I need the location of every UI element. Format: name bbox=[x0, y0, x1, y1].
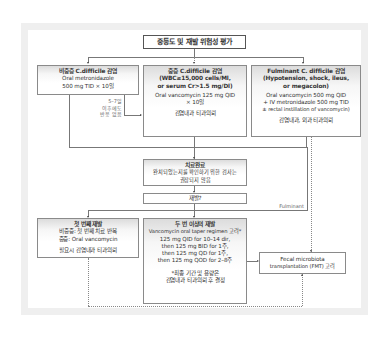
connector bbox=[247, 261, 257, 262]
connector bbox=[124, 95, 125, 115]
title-text: 중등도 및 재발 위험성 평가 bbox=[144, 36, 245, 48]
no-response-label: 5–7일 이후에도 반응 없음 bbox=[92, 98, 122, 118]
severe-heading: (WBC≥15,000 cells/Ml, bbox=[144, 75, 246, 82]
arrow-right-icon bbox=[140, 114, 142, 116]
feedback-connector bbox=[302, 274, 303, 306]
connector bbox=[124, 115, 141, 116]
connector bbox=[194, 137, 195, 159]
connector bbox=[69, 95, 70, 147]
recurrence-question-text: 재발? bbox=[144, 194, 246, 203]
first-recurrence-box: 첫 번째 재발 비중증: 첫 번째 치료 반복 중증: Oral vancomy… bbox=[37, 218, 139, 258]
connector bbox=[194, 49, 195, 57]
nonsevere-box: 비중증 C.difficile 감염 Oral metronidazole 50… bbox=[37, 65, 139, 95]
second-recur-note: 감염내과 티과의뢰 후 결정 bbox=[144, 277, 246, 284]
feedback-connector bbox=[88, 306, 302, 307]
fulminant-heading: (Hypotension, shock, ileus, bbox=[252, 75, 360, 82]
fulminant-heading: or megacolon) bbox=[252, 83, 360, 90]
fulminant-note: 감염내과, 외과 티과의뢰 bbox=[252, 117, 360, 124]
nonsevere-line: Oral metronidazole bbox=[38, 75, 138, 82]
second-recur-line: Vancomycin oral taper regimen 고려* bbox=[144, 228, 246, 235]
feedback-connector bbox=[88, 258, 89, 306]
label-line: 반응 없음 bbox=[92, 111, 122, 118]
arrow-down-icon bbox=[193, 62, 195, 64]
severe-line: × 10일 bbox=[144, 99, 246, 106]
title-box: 중등도 및 재발 위험성 평가 bbox=[143, 35, 246, 49]
fulminant-label: Fulminant bbox=[270, 203, 304, 210]
second-recur-note: *최종 기간 및 용량은 bbox=[144, 270, 246, 277]
second-recur-line: then 125 mg QOD for 2–8주 bbox=[144, 257, 246, 264]
first-recur-line: 중증: Oral vancomycin bbox=[38, 236, 138, 243]
fmt-line: transplantation (FMT) 고려 bbox=[260, 263, 345, 270]
nonsevere-line: 500 mg TID × 10일 bbox=[38, 83, 138, 90]
recurrence-question-box: 재발? bbox=[143, 193, 247, 204]
second-recurrence-box: 두 번 이상의 재발 Vancomycin oral taper regimen… bbox=[143, 218, 247, 304]
second-recur-line: then 125 mg QD for 1주, bbox=[144, 250, 246, 257]
connector bbox=[88, 57, 304, 58]
fulminant-line: + IV metronidazole 500 mg TID bbox=[252, 99, 360, 106]
complete-line: 권장되지 않음 bbox=[144, 177, 246, 184]
fulminant-box: Fulminant C. difficile 감염 (Hypotension, … bbox=[251, 65, 361, 137]
severe-heading: 중증 C.difficile 감염 bbox=[144, 68, 246, 75]
complete-line: 완치되었는지를 확인하기 위한 검사는 bbox=[144, 169, 246, 176]
connector bbox=[306, 137, 307, 147]
arrow-down-icon bbox=[87, 62, 89, 64]
first-recur-line: 비중증: 첫 번째 치료 반복 bbox=[38, 228, 138, 235]
connector bbox=[69, 147, 307, 148]
connector bbox=[307, 147, 308, 210]
arrow-up-icon bbox=[301, 274, 303, 276]
arrow-down-icon bbox=[302, 62, 304, 64]
second-recur-line: 125 mg QID for 10–14 dir, bbox=[144, 236, 246, 243]
first-recur-note: 필요시 감염내과 티과의뢰 bbox=[38, 247, 138, 254]
fulminant-line: ± rectal instillation of vancomycin) bbox=[252, 106, 360, 113]
severe-box: 중증 C.difficile 감염 (WBC≥15,000 cells/Ml, … bbox=[143, 65, 247, 137]
treatment-complete-box: 치료완료 완치되었는지를 확인하기 위한 검사는 권장되지 않음 bbox=[143, 159, 247, 186]
fulminant-line: Oral vancomycin 500 mg QID bbox=[252, 92, 360, 99]
fulminant-connector bbox=[311, 137, 312, 252]
severe-heading: or serum Cr>1.5 mg/Dl) bbox=[144, 83, 246, 90]
fulminant-heading: Fulminant C. difficile 감염 bbox=[252, 68, 360, 75]
severe-note: 감염내과 티과의뢰 bbox=[144, 110, 246, 117]
second-recur-line: then 125 mg BID for 1주, bbox=[144, 243, 246, 250]
fmt-box: Fecal microbiota transplantation (FMT) 고… bbox=[259, 252, 346, 274]
connector bbox=[88, 210, 308, 211]
nonsevere-heading: 비중증 C.difficile 감염 bbox=[38, 68, 138, 75]
